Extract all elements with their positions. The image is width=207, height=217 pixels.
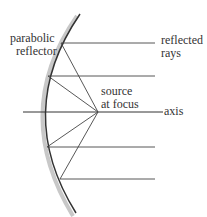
reflected-rays-label: reflected rays <box>161 34 203 60</box>
source-label: source at focus <box>101 85 139 111</box>
reflector-label-line2: reflector <box>10 45 57 58</box>
source-label-line2: at focus <box>101 98 139 111</box>
reflected-rays <box>47 43 155 179</box>
reflector-label: parabolic reflector <box>10 32 57 58</box>
axis-label: axis <box>164 105 183 118</box>
parabolic-reflector-diagram: parabolic reflector reflected rays sourc… <box>0 0 207 217</box>
rays-label-line2: rays <box>161 47 203 60</box>
